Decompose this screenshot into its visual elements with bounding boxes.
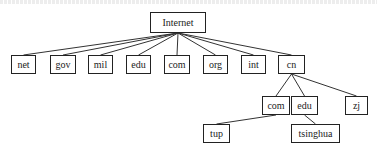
- node-label: mil: [94, 59, 107, 70]
- node-tup: tup: [203, 124, 230, 143]
- node-label: tsinghua: [299, 128, 333, 139]
- node-label: tup: [210, 128, 223, 139]
- edge-internet-net: [24, 33, 179, 55]
- node-label: net: [17, 59, 29, 70]
- node-label: Internet: [162, 17, 193, 28]
- node-mil: mil: [88, 55, 113, 74]
- node-label: cn: [287, 59, 296, 70]
- edge-internet-gov: [63, 33, 178, 55]
- node-label: int: [248, 59, 259, 70]
- node-label: gov: [56, 59, 71, 70]
- edge-internet-mil: [101, 33, 179, 55]
- edge-cn-com-tup: [217, 115, 277, 124]
- node-cn-edu: edu: [291, 96, 318, 115]
- edge-cn-edu-tsinghua: [305, 115, 316, 124]
- edge-internet-int: [178, 33, 254, 55]
- node-label: edu: [297, 100, 311, 111]
- node-label: com: [267, 100, 284, 111]
- node-gov: gov: [50, 55, 76, 74]
- node-int: int: [241, 55, 266, 74]
- edge-internet-com: [177, 33, 178, 55]
- edge-cn-cn-zj: [292, 74, 357, 96]
- node-org: org: [203, 55, 228, 74]
- node-cn-zj: zj: [345, 96, 368, 115]
- node-label: zj: [353, 100, 360, 111]
- node-edu: edu: [126, 55, 151, 74]
- node-net: net: [11, 55, 36, 74]
- node-cn-com: com: [262, 96, 290, 115]
- node-label: org: [209, 59, 222, 70]
- node-cn: cn: [278, 55, 305, 74]
- node-internet: Internet: [150, 12, 206, 33]
- node-tsinghua: tsinghua: [291, 124, 340, 143]
- node-com: com: [164, 55, 190, 74]
- edge-cn-cn-com: [276, 74, 292, 96]
- node-label: edu: [131, 59, 145, 70]
- node-label: com: [168, 59, 185, 70]
- edge-internet-cn: [178, 33, 292, 55]
